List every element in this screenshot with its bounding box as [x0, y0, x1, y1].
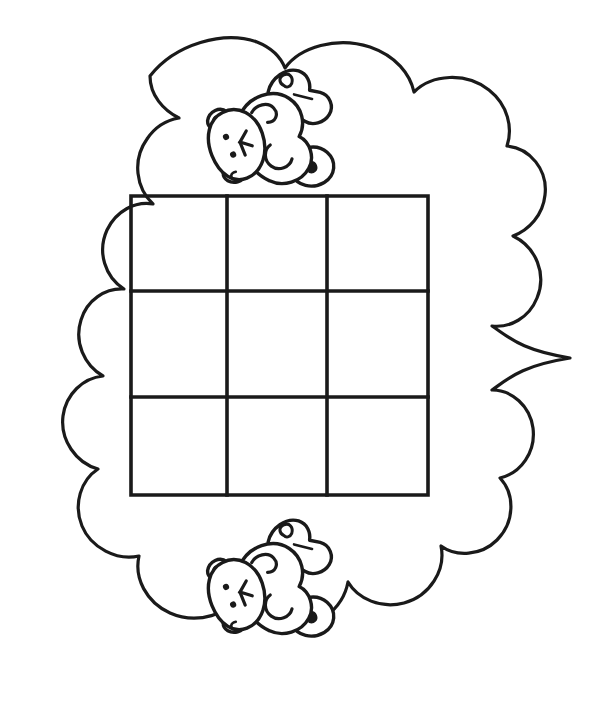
grid-cell-r2c2[interactable]: [230, 296, 329, 396]
coloring-page: Teddy Bear Cloud Coloring Page: [0, 0, 602, 712]
grid-cell-r1c2[interactable]: [230, 196, 329, 296]
grid-cell-r3c3[interactable]: [329, 395, 428, 495]
grid-cell-r2c1[interactable]: [131, 296, 230, 396]
grid-cell-r3c2[interactable]: [230, 395, 329, 495]
grid-cell-r3c1[interactable]: [131, 395, 230, 495]
grid-cell-r1c1[interactable]: [131, 196, 230, 296]
grid-cell-r2c3[interactable]: [329, 296, 428, 396]
grid-cells: [131, 196, 428, 495]
grid-cell-r1c3[interactable]: [329, 196, 428, 296]
